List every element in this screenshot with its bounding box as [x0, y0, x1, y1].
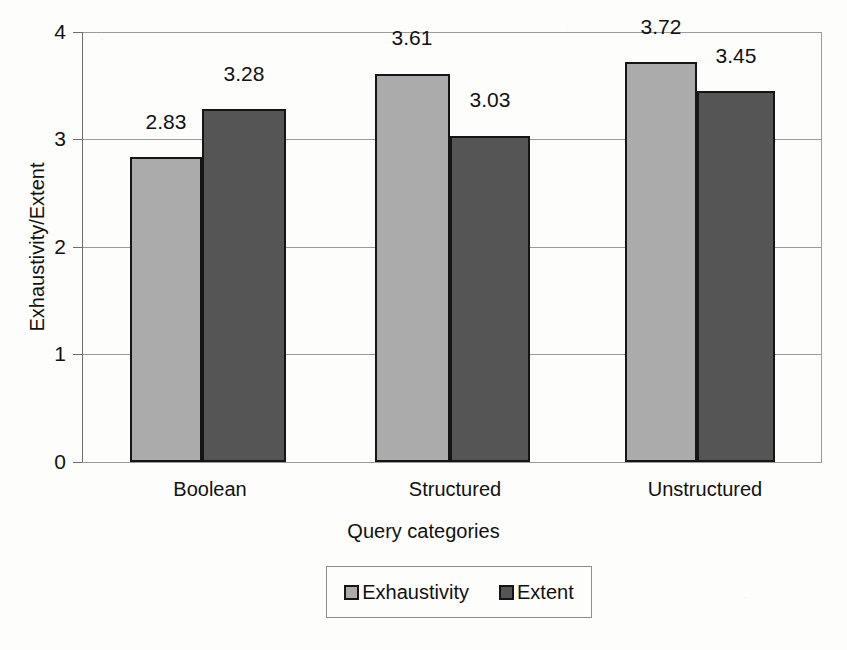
plot-right-border [821, 32, 822, 462]
bar-unstructured-extent[interactable] [697, 91, 775, 462]
bar-value-boolean-extent: 3.28 [194, 62, 294, 86]
bar-boolean-exhaustivity[interactable] [130, 157, 202, 462]
legend-label-extent: Extent [517, 581, 574, 604]
legend-item-exhaustivity[interactable]: Exhaustivity [344, 581, 469, 604]
legend-swatch-exhaustivity-icon [344, 585, 359, 600]
bar-structured-exhaustivity[interactable] [375, 74, 450, 462]
bar-value-structured-exhaustivity: 3.61 [362, 26, 462, 50]
chart-legend: Exhaustivity Extent [326, 566, 592, 618]
y-tick-1 [73, 354, 82, 355]
y-tick-3 [73, 139, 82, 140]
y-axis-title: Exhaustivity/Extent [22, 32, 52, 462]
x-category-label-unstructured: Unstructured [630, 478, 780, 501]
legend-label-exhaustivity: Exhaustivity [362, 581, 469, 604]
y-tick-4 [73, 32, 82, 33]
legend-item-extent[interactable]: Extent [499, 581, 574, 604]
bar-value-boolean-exhaustivity: 2.83 [116, 110, 216, 134]
bar-value-unstructured-exhaustivity: 3.72 [611, 15, 711, 39]
axis-x-baseline [82, 462, 822, 463]
chart-canvas: 4 3 2 1 0 Exhaustivity/Extent 2.83 3.28 … [0, 0, 847, 650]
y-tick-2 [73, 247, 82, 248]
x-axis-title: Query categories [0, 520, 847, 543]
x-category-label-boolean: Boolean [140, 478, 280, 501]
legend-swatch-extent-icon [499, 585, 514, 600]
x-category-label-structured: Structured [385, 478, 525, 501]
y-axis-line [82, 32, 83, 462]
bar-boolean-extent[interactable] [202, 109, 286, 462]
bar-unstructured-exhaustivity[interactable] [625, 62, 697, 462]
y-tick-0 [73, 462, 82, 463]
bar-value-unstructured-extent: 3.45 [686, 44, 786, 68]
bar-value-structured-extent: 3.03 [440, 88, 540, 112]
bar-structured-extent[interactable] [450, 136, 530, 462]
